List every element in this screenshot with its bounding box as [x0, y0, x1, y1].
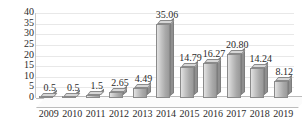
x-axis-tick-label: 2015 — [176, 108, 202, 120]
x-axis-tick-label: 2010 — [59, 108, 85, 120]
bar[interactable] — [39, 97, 53, 99]
x-axis-tick-label: 2011 — [83, 108, 109, 120]
y-axis-tick-label: 35 — [14, 18, 34, 28]
bar-top-face — [63, 93, 80, 97]
x-axis-tick-label: 2014 — [153, 108, 179, 120]
bar[interactable] — [109, 92, 123, 98]
y-axis-tick-label: 15 — [14, 60, 34, 70]
bar[interactable] — [203, 63, 217, 98]
bar-front-face — [180, 67, 194, 98]
y-axis-tick-label: 40 — [14, 7, 34, 17]
y-axis-tick-label: 20 — [14, 50, 34, 60]
bar-top-face — [87, 91, 104, 95]
bar-front-face — [203, 63, 217, 98]
bar[interactable] — [250, 68, 264, 98]
bar-top-face — [181, 63, 198, 67]
bar[interactable] — [156, 24, 170, 99]
bar-value-label: 8.12 — [264, 67, 302, 77]
bar-front-face — [86, 95, 100, 98]
x-axis-tick-label: 2016 — [200, 108, 226, 120]
bar-front-face — [109, 92, 123, 98]
x-axis-tick-label: 2019 — [270, 108, 296, 120]
bar-front-face — [156, 24, 170, 99]
bar-series: 0.50.51.52.654.4935.0614.7916.2720.8014.… — [36, 13, 294, 98]
x-axis-tick-label: 2012 — [106, 108, 132, 120]
x-axis-tick-label: 2017 — [223, 108, 249, 120]
bar[interactable] — [227, 54, 241, 98]
x-axis-tick-label: 2013 — [130, 108, 156, 120]
bar-slot — [271, 13, 294, 98]
bar-slot — [130, 13, 153, 98]
y-axis-tick-label: 10 — [14, 71, 34, 81]
bar-front-face — [250, 68, 264, 98]
bar[interactable] — [133, 88, 147, 98]
bar[interactable] — [274, 81, 288, 98]
bar-front-face — [274, 81, 288, 98]
x-axis-tick-label: 2009 — [36, 108, 62, 120]
y-axis-tick-label: 25 — [14, 39, 34, 49]
y-axis-tick-label: 30 — [14, 28, 34, 38]
bar[interactable] — [86, 95, 100, 98]
bar[interactable] — [180, 67, 194, 98]
bar-chart: 0510152025303540 0.50.51.52.654.4935.061… — [0, 0, 302, 127]
y-axis-tick-label: 0 — [14, 92, 34, 102]
x-axis: 2009201020112012201320142015201620172018… — [36, 108, 298, 122]
bar-top-face — [40, 93, 57, 97]
bar-top-face — [275, 77, 292, 81]
bar-front-face — [227, 54, 241, 98]
bar[interactable] — [62, 97, 76, 99]
bar-front-face — [133, 88, 147, 98]
x-axis-tick-label: 2018 — [247, 108, 273, 120]
